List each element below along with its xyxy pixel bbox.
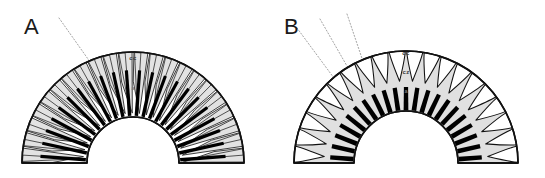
label-b-cz: cz [403, 69, 410, 75]
panel-letter-a: A [24, 14, 39, 39]
panel-a [22, 52, 244, 163]
figure-container: ccaAccczaB [0, 0, 545, 178]
label-b-cc: cc [402, 50, 410, 56]
panel-b [294, 51, 518, 163]
label-a-cc: cc [129, 55, 137, 61]
figure-svg: ccaAccczaB [0, 0, 545, 178]
panel-letter-b: B [284, 14, 299, 39]
